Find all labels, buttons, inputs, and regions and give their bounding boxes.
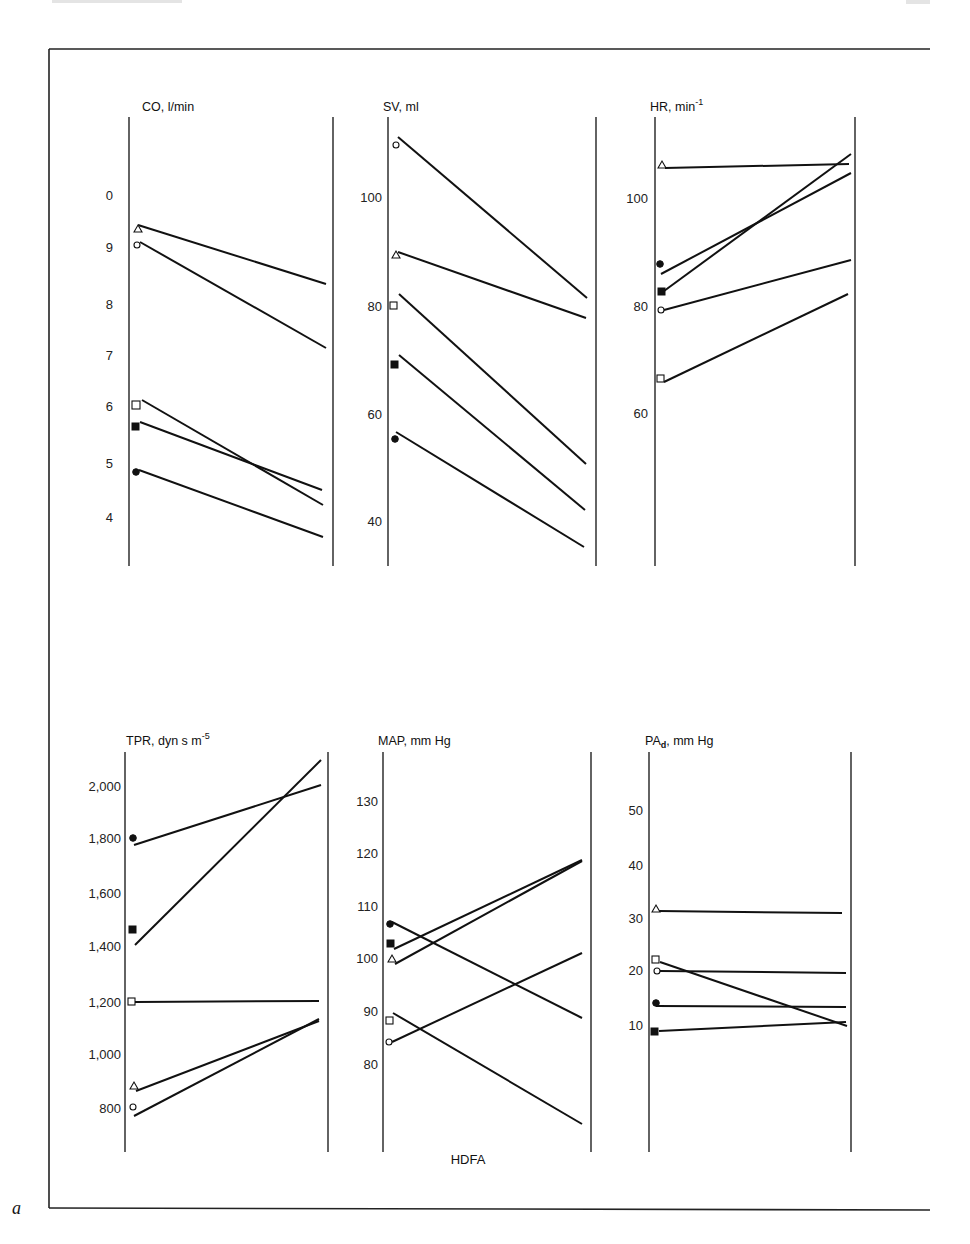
- line-pa-filled-square: [659, 1022, 846, 1031]
- line-tpr-circle: [134, 1019, 319, 1116]
- figure-frame: [49, 49, 930, 1210]
- marker-filled-square-icon: [387, 940, 394, 947]
- svg-text:10: 10: [629, 1018, 643, 1033]
- marker-open-square-icon: [132, 401, 140, 409]
- svg-text:80: 80: [368, 299, 382, 314]
- svg-text:4: 4: [106, 510, 113, 525]
- panel-sv: SV, ml 100 80 60 40: [360, 100, 596, 566]
- line-hr-circle: [664, 260, 851, 310]
- svg-text:50: 50: [629, 803, 643, 818]
- header-remnant-right: [906, 0, 930, 4]
- figure-panel-label: a: [12, 1198, 21, 1218]
- y-ticks-sv: 100 80 60 40: [360, 190, 382, 529]
- marker-open-triangle-icon: [652, 905, 660, 912]
- line-pa-triangle: [659, 911, 842, 913]
- marker-filled-square-icon: [658, 288, 665, 295]
- marker-filled-square-icon: [129, 926, 136, 933]
- marker-open-circle-icon: [134, 242, 140, 248]
- marker-open-square-icon: [652, 956, 659, 963]
- marker-open-triangle-icon: [388, 955, 396, 962]
- line-pa-filled-circle: [656, 1006, 846, 1007]
- svg-text:800: 800: [99, 1101, 121, 1116]
- line-map-filled-square: [394, 860, 582, 949]
- series-pa: [651, 905, 847, 1035]
- svg-text:100: 100: [360, 190, 382, 205]
- svg-text:80: 80: [634, 299, 648, 314]
- header-remnant-left: [52, 0, 182, 3]
- svg-text:5: 5: [106, 456, 113, 471]
- series-co: [132, 225, 326, 537]
- marker-open-triangle-icon: [130, 1082, 138, 1089]
- svg-text:1,000: 1,000: [88, 1047, 121, 1062]
- y-ticks-hr: 100 80 60: [626, 191, 648, 421]
- svg-text:120: 120: [356, 846, 378, 861]
- svg-text:8: 8: [106, 297, 113, 312]
- panel-title-sv: SV, ml: [383, 100, 419, 114]
- line-map-circle: [392, 953, 582, 1042]
- line-tpr-triangle: [136, 1021, 319, 1091]
- marker-open-circle-icon: [386, 1039, 392, 1045]
- svg-text:90: 90: [364, 1004, 378, 1019]
- marker-open-circle-icon: [654, 968, 660, 974]
- panel-title-co: CO, l/min: [142, 100, 194, 114]
- marker-filled-circle-icon: [653, 1000, 660, 1007]
- svg-text:110: 110: [357, 899, 378, 914]
- series-sv: [390, 137, 587, 547]
- marker-filled-square-icon: [651, 1028, 658, 1035]
- panel-title-pa: PAd, mm Hg: [645, 734, 714, 750]
- marker-filled-square-icon: [132, 423, 139, 430]
- series-map: [386, 860, 582, 1124]
- marker-open-square-icon: [657, 375, 664, 382]
- x-axis-label-hdfa: HDFA: [451, 1152, 486, 1167]
- svg-text:40: 40: [368, 514, 382, 529]
- figure-canvas: a CO, l/min 0 9 8 7 6 5 4 SV, ml: [0, 0, 970, 1244]
- marker-filled-circle-icon: [130, 835, 137, 842]
- svg-text:60: 60: [634, 406, 648, 421]
- line-sv-circle: [398, 137, 587, 298]
- marker-filled-circle-icon: [657, 261, 664, 268]
- marker-open-circle-icon: [393, 142, 399, 148]
- svg-text:20: 20: [629, 963, 643, 978]
- svg-text:1,600: 1,600: [88, 886, 121, 901]
- line-hr-filled-square: [664, 154, 851, 291]
- panel-pa: PAd, mm Hg 50 40 30 20 10: [629, 734, 851, 1152]
- line-co-open-square: [142, 400, 323, 505]
- svg-text:0: 0: [106, 188, 113, 203]
- y-ticks-map: 130 120 110 100 90 80: [356, 794, 378, 1072]
- marker-filled-circle-icon: [387, 921, 394, 928]
- line-map-triangle: [395, 861, 582, 964]
- line-tpr-filled-circle: [134, 785, 321, 845]
- y-ticks-tpr: 2,000 1,800 1,600 1,400 1,200 1,000 800: [88, 779, 121, 1116]
- panel-title-map: MAP, mm Hg: [378, 734, 451, 748]
- marker-filled-square-icon: [391, 361, 398, 368]
- svg-text:2,000: 2,000: [88, 779, 121, 794]
- svg-text:6: 6: [106, 399, 113, 414]
- line-hr-open-square: [664, 294, 848, 382]
- svg-text:1,800: 1,800: [88, 831, 121, 846]
- marker-filled-circle-icon: [133, 469, 140, 476]
- panel-title-hr: HR, min-1: [650, 97, 703, 114]
- line-sv-triangle: [398, 252, 586, 318]
- line-pa-circle: [660, 971, 846, 973]
- marker-open-triangle-icon: [658, 161, 666, 168]
- line-map-open-square: [393, 1013, 582, 1124]
- svg-text:9: 9: [106, 240, 113, 255]
- series-tpr: [128, 760, 321, 1116]
- svg-text:1,400: 1,400: [88, 939, 121, 954]
- svg-text:80: 80: [364, 1057, 378, 1072]
- y-ticks-pa: 50 40 30 20 10: [629, 803, 643, 1033]
- panel-tpr: TPR, dyn s m-5 2,000 1,800 1,600 1,400 1…: [88, 731, 328, 1152]
- svg-text:130: 130: [356, 794, 378, 809]
- line-sv-filled-circle: [396, 432, 584, 547]
- svg-text:100: 100: [356, 951, 378, 966]
- line-co-circle: [140, 242, 326, 348]
- series-hr: [657, 154, 851, 382]
- svg-text:60: 60: [368, 407, 382, 422]
- marker-open-square-icon: [386, 1017, 393, 1024]
- line-hr-triangle: [665, 164, 849, 168]
- marker-open-square-icon: [390, 302, 397, 309]
- svg-text:1,200: 1,200: [88, 995, 121, 1010]
- panel-co: CO, l/min 0 9 8 7 6 5 4: [106, 100, 333, 566]
- panel-title-tpr: TPR, dyn s m-5: [126, 731, 210, 748]
- svg-text:40: 40: [629, 858, 643, 873]
